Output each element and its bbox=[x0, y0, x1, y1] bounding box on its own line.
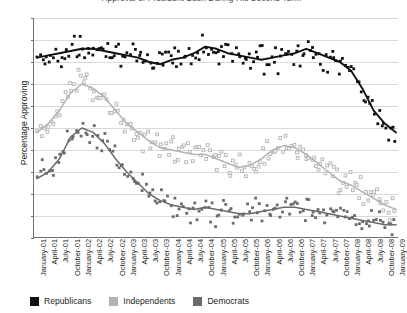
data-point bbox=[277, 72, 280, 75]
data-point bbox=[391, 233, 394, 236]
data-point bbox=[198, 58, 201, 61]
data-point bbox=[284, 200, 287, 203]
legend-item[interactable]: Democrats bbox=[193, 296, 249, 306]
data-point bbox=[52, 123, 55, 126]
data-point bbox=[79, 74, 82, 77]
data-point bbox=[378, 198, 381, 201]
data-point bbox=[222, 55, 225, 58]
data-point bbox=[137, 136, 140, 139]
data-point bbox=[91, 99, 94, 102]
data-point bbox=[40, 135, 43, 138]
data-point bbox=[381, 124, 384, 127]
data-point bbox=[61, 56, 64, 59]
data-point bbox=[87, 52, 90, 55]
data-point bbox=[91, 54, 94, 57]
data-point bbox=[339, 189, 342, 192]
data-point bbox=[358, 222, 361, 225]
x-tick-label: October-07 bbox=[342, 239, 351, 276]
data-point bbox=[132, 43, 135, 46]
data-point bbox=[299, 211, 302, 214]
data-point bbox=[207, 53, 210, 56]
data-point bbox=[60, 65, 63, 68]
x-tick-label: April-03 bbox=[140, 239, 149, 264]
data-point bbox=[116, 164, 119, 167]
data-point bbox=[111, 150, 114, 153]
legend-item[interactable]: Republicans bbox=[30, 296, 91, 306]
legend-item[interactable]: Independents bbox=[109, 296, 175, 306]
data-point bbox=[346, 210, 349, 213]
data-point bbox=[387, 139, 390, 142]
data-point bbox=[307, 198, 310, 201]
data-point bbox=[299, 145, 302, 148]
data-point bbox=[141, 173, 144, 176]
data-point bbox=[205, 200, 208, 203]
data-point bbox=[104, 132, 107, 135]
data-point bbox=[75, 89, 78, 92]
data-point bbox=[267, 157, 270, 160]
data-point bbox=[353, 214, 356, 217]
data-point bbox=[149, 147, 152, 150]
data-point bbox=[355, 183, 358, 186]
data-point bbox=[332, 211, 335, 214]
data-point bbox=[258, 202, 261, 205]
data-point bbox=[331, 50, 334, 53]
data-point bbox=[255, 51, 258, 54]
data-point bbox=[220, 45, 223, 48]
data-point bbox=[52, 56, 55, 59]
data-point bbox=[393, 140, 396, 143]
data-point bbox=[129, 123, 132, 126]
data-point bbox=[284, 134, 287, 137]
data-point bbox=[252, 60, 255, 63]
data-point bbox=[355, 223, 358, 226]
x-axis-labels: January-01April-01July-01October-01Janua… bbox=[33, 239, 398, 297]
data-point bbox=[232, 222, 235, 225]
data-point bbox=[368, 225, 371, 228]
data-point bbox=[285, 197, 288, 200]
data-point bbox=[266, 204, 269, 207]
plot-area: 0102030405060708090100 bbox=[33, 18, 398, 238]
data-point bbox=[296, 156, 299, 159]
x-tick-label: January-09 bbox=[398, 239, 407, 276]
legend-label: Republicans bbox=[44, 296, 91, 306]
data-point bbox=[173, 160, 176, 163]
data-point bbox=[177, 148, 180, 151]
data-point bbox=[106, 140, 109, 143]
x-tick-label: October-08 bbox=[387, 239, 396, 276]
data-point bbox=[161, 53, 164, 56]
data-point bbox=[292, 63, 295, 66]
data-point bbox=[220, 150, 223, 153]
data-point bbox=[236, 216, 239, 219]
data-point bbox=[302, 209, 305, 212]
data-point bbox=[379, 219, 382, 222]
data-point bbox=[314, 165, 317, 168]
data-point bbox=[143, 133, 146, 136]
data-point bbox=[218, 63, 221, 66]
data-point bbox=[367, 199, 370, 202]
data-point bbox=[352, 67, 355, 70]
x-tick-label: October-06 bbox=[297, 239, 306, 276]
x-tick-label: July-08 bbox=[376, 239, 385, 263]
data-point bbox=[71, 43, 74, 46]
data-point bbox=[288, 213, 291, 216]
data-point bbox=[185, 161, 188, 164]
data-point bbox=[217, 214, 220, 217]
x-tick-label: July-02 bbox=[106, 239, 115, 263]
x-tick-label: January-03 bbox=[129, 239, 138, 276]
data-point bbox=[215, 169, 218, 172]
data-point bbox=[209, 149, 212, 152]
data-point bbox=[63, 57, 66, 60]
data-point bbox=[362, 203, 365, 206]
data-point bbox=[364, 100, 367, 103]
data-point bbox=[151, 188, 154, 191]
x-tick-label: October-04 bbox=[207, 239, 216, 276]
data-point bbox=[164, 51, 167, 54]
data-point bbox=[193, 202, 196, 205]
data-point bbox=[125, 51, 128, 54]
data-point bbox=[371, 99, 374, 102]
data-point bbox=[224, 154, 227, 157]
data-point bbox=[392, 218, 395, 221]
data-point bbox=[231, 60, 234, 63]
data-point bbox=[302, 148, 305, 151]
x-tick-label: July-06 bbox=[286, 239, 295, 263]
data-point bbox=[254, 197, 257, 200]
